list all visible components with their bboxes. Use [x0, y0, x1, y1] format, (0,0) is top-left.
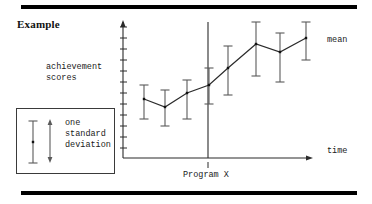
- error-bars-group: [140, 22, 311, 126]
- x-axis-label: time: [327, 146, 347, 157]
- error-bar-center-dot: [32, 141, 34, 143]
- y-axis-group: [120, 20, 127, 158]
- intervention-label: Program X: [183, 170, 229, 181]
- data-point: [227, 67, 229, 69]
- data-points-group: [143, 37, 307, 108]
- error-bar: [276, 33, 285, 82]
- figure-page: Example: [0, 0, 372, 204]
- legend-label: one standard deviation: [65, 118, 111, 151]
- error-bar: [252, 22, 261, 76]
- data-point: [208, 84, 210, 86]
- data-point: [305, 37, 307, 39]
- data-point: [279, 51, 281, 53]
- error-bar: [302, 22, 311, 60]
- x-axis-group: [123, 155, 313, 160]
- y-axis-label: achievement scores: [46, 62, 102, 84]
- series-legend-label: mean: [327, 35, 347, 46]
- data-point: [143, 98, 145, 100]
- legend-box: one standard deviation: [16, 108, 115, 174]
- series-mean-line: [144, 38, 306, 107]
- x-axis-arrowhead: [306, 155, 313, 160]
- series-line-group: [144, 38, 306, 107]
- data-point: [186, 92, 188, 94]
- data-point: [164, 106, 166, 108]
- arrow-head-up-icon: [48, 119, 53, 125]
- y-axis-arrowhead: [120, 20, 125, 27]
- data-point: [255, 43, 257, 45]
- error-bar: [140, 85, 149, 119]
- arrow-head-down-icon: [48, 157, 53, 163]
- error-bar: [183, 80, 192, 119]
